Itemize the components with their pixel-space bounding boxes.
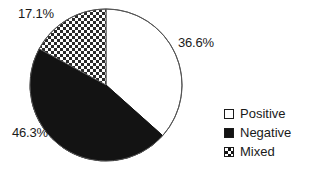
pie-label-positive: 36.6% [178, 35, 214, 50]
legend-label-mixed: Mixed [240, 145, 275, 158]
legend-item-negative[interactable]: Negative [224, 125, 291, 140]
legend-item-mixed[interactable]: Mixed [224, 144, 291, 159]
pie-chart-figure: 17.1% 36.6% 46.3% Positive Negative Mixe… [0, 0, 312, 174]
pie-label-negative: 46.3% [12, 125, 48, 140]
legend-label-positive: Positive [240, 107, 286, 120]
chart-legend: Positive Negative Mixed [224, 106, 291, 159]
black-square-swatch-icon [224, 128, 234, 138]
crosshatch-square-swatch-icon [224, 147, 234, 157]
legend-label-negative: Negative [240, 126, 291, 139]
white-square-swatch-icon [224, 109, 234, 119]
legend-item-positive[interactable]: Positive [224, 106, 291, 121]
pie-label-mixed: 17.1% [18, 6, 54, 21]
